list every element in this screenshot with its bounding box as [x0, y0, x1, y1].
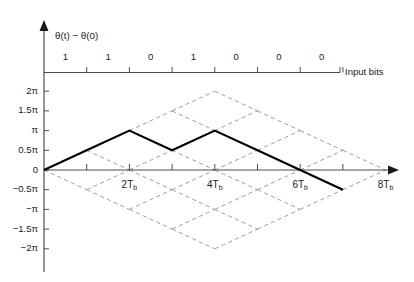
input-bit-label: 0 [234, 51, 239, 62]
bits-axis-ticks [87, 67, 343, 73]
trellis-edge [129, 209, 172, 229]
x-axis-group: 2Tb4Tb6Tb8Tb [44, 164, 399, 190]
x-tick-label: 8Tb [378, 179, 394, 191]
input-bit-label: 1 [191, 51, 196, 62]
input-bit-label: 0 [319, 51, 324, 62]
trellis-edge [215, 150, 258, 170]
trellis-edge [300, 131, 343, 151]
bits-axis-group: 1101000 Input bits [44, 51, 384, 77]
trellis-edge [129, 190, 172, 210]
x-axis-arrowhead [388, 166, 399, 175]
trellis-edge [215, 190, 258, 210]
input-bit-label: 1 [105, 51, 110, 62]
trellis-edge [44, 170, 87, 190]
x-tick-label: 6Tb [292, 179, 308, 191]
trellis-edge [300, 190, 343, 210]
input-bit-label: 1 [63, 51, 68, 62]
trellis-edge [172, 150, 215, 170]
phase-trellis-figure: 1101000 Input bits θ(t) − θ(0) 2π1.5ππ0.… [0, 0, 414, 282]
trellis-edge [300, 150, 343, 170]
y-tick-label: π [31, 124, 38, 135]
trellis-edge [215, 229, 258, 249]
y-axis-tick-labels: 2π1.5ππ0.5π0−0.5π−π−1.5π−2π [13, 85, 39, 254]
input-bit-label: 0 [276, 51, 281, 62]
trellis-edge [258, 190, 301, 210]
trellis-edge [215, 91, 258, 111]
trellis-chart: 1101000 Input bits θ(t) − θ(0) 2π1.5ππ0.… [0, 0, 414, 282]
trellis-edge [258, 209, 301, 229]
input-bits-axis-label: Input bits [345, 66, 384, 77]
y-tick-label: 0.5π [18, 144, 38, 155]
x-axis-ticks [87, 164, 343, 170]
trellis-edge [87, 190, 130, 210]
trellis-edge [258, 111, 301, 131]
y-axis-group: θ(t) − θ(0) 2π1.5ππ0.5π0−0.5π−π−1.5π−2π [13, 20, 99, 272]
y-tick-label: −0.5π [13, 183, 39, 194]
trellis-edge [215, 111, 258, 131]
y-axis-arrowhead [40, 20, 49, 31]
trellis-edge [258, 131, 301, 151]
input-bit-labels: 1101000 [63, 51, 324, 62]
input-bit-label: 0 [148, 51, 153, 62]
y-axis-title: θ(t) − θ(0) [55, 30, 98, 41]
trellis-edge [172, 209, 215, 229]
trellis-edge [343, 150, 386, 170]
trellis-edge [172, 190, 215, 210]
trellis-edge [172, 229, 215, 249]
trellis-edge [129, 111, 172, 131]
y-tick-label: −π [26, 203, 39, 214]
trellis-edge [172, 111, 215, 131]
trellis-edge [215, 209, 258, 229]
x-tick-label: 4Tb [207, 179, 223, 191]
trellis-edge [172, 91, 215, 111]
y-tick-label: 2π [26, 85, 38, 96]
y-tick-label: −2π [21, 242, 39, 253]
y-tick-label: 1.5π [18, 104, 38, 115]
trellis-edge [129, 150, 172, 170]
trellis-edge [87, 150, 130, 170]
x-axis-tick-labels: 2Tb4Tb6Tb8Tb [122, 179, 394, 191]
y-tick-label: −1.5π [13, 223, 39, 234]
x-tick-label: 2Tb [122, 179, 138, 191]
y-tick-label: 0 [33, 164, 38, 175]
